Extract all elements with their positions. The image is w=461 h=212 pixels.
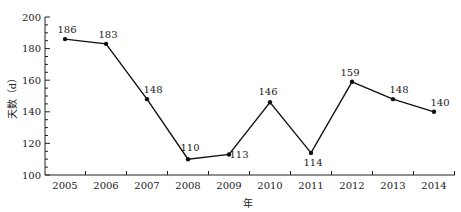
data-point (391, 97, 395, 101)
x-tick-label: 2012 (339, 180, 364, 191)
data-label: 140 (430, 97, 449, 108)
line-chart: 1001201401601802002005200620072008200920… (0, 0, 461, 212)
axes: 1001201401601802002005200620072008200920… (22, 12, 455, 192)
x-tick-label: 2010 (257, 180, 282, 191)
y-axis-label: 天数（d） (6, 73, 18, 119)
data-point (432, 110, 436, 114)
x-axis-label: 年 (243, 197, 253, 209)
x-tick-label: 2006 (93, 180, 118, 191)
data-point (104, 42, 108, 46)
data-label: 159 (340, 67, 359, 78)
data-label: 114 (303, 157, 322, 168)
y-tick-label: 120 (22, 138, 41, 149)
data-point (63, 37, 67, 41)
x-tick-label: 2011 (298, 180, 323, 191)
x-tick-label: 2014 (421, 180, 446, 191)
x-tick-label: 2013 (380, 180, 405, 191)
y-tick-label: 100 (22, 170, 41, 181)
data-point (145, 97, 149, 101)
data-point (268, 100, 272, 104)
data-point (350, 80, 354, 84)
series-line: 186183148110113146114159148140 (57, 24, 449, 168)
y-tick-label: 200 (22, 12, 41, 23)
x-tick-label: 2008 (175, 180, 200, 191)
data-label: 146 (258, 86, 277, 97)
data-label: 113 (229, 149, 248, 160)
data-point (309, 151, 313, 155)
y-tick-label: 180 (22, 43, 41, 54)
y-tick-label: 140 (22, 106, 41, 117)
x-tick-label: 2009 (216, 180, 241, 191)
data-label: 148 (143, 84, 162, 95)
data-label: 183 (98, 29, 117, 40)
x-tick-label: 2007 (134, 180, 159, 191)
data-label: 110 (180, 142, 199, 153)
data-label: 148 (389, 84, 408, 95)
data-label: 186 (57, 24, 76, 35)
y-tick-label: 160 (22, 75, 41, 86)
data-point (186, 157, 190, 161)
x-tick-label: 2005 (52, 180, 77, 191)
